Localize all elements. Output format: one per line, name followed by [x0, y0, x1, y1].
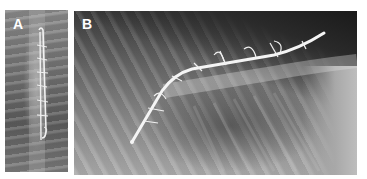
panel-label-b: B [82, 17, 92, 31]
implant-overlay-b [74, 11, 357, 175]
radiograph-panel-b: B [74, 11, 357, 175]
implant-overlay-a [5, 10, 68, 172]
panel-label-a: A [13, 17, 23, 31]
radiograph-panel-a: A [5, 10, 68, 172]
